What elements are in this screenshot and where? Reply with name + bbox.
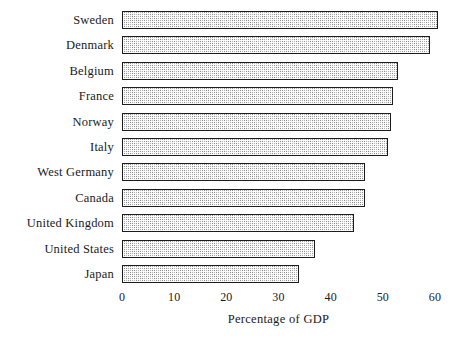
bar-row [122,160,435,185]
bar [122,265,299,283]
bar-row [122,237,435,262]
category-label: West Germany [0,160,114,185]
bar-row [122,211,435,236]
category-label: Belgium [0,59,114,84]
bar [122,163,365,181]
category-label: France [0,84,114,109]
category-label: Canada [0,186,114,211]
bar [122,189,365,207]
category-label: Italy [0,135,114,160]
x-axis-title: Percentage of GDP [122,312,435,327]
bar-row [122,59,435,84]
bar-chart: Sweden Denmark Belgium France Norway Ita… [0,0,470,343]
bar-row [122,110,435,135]
bar [122,113,391,131]
bar-row [122,262,435,287]
bar [122,87,393,105]
bar [122,240,315,258]
category-label: Denmark [0,33,114,58]
tick-label: 40 [324,290,336,305]
category-label: Japan [0,262,114,287]
tick-label: 60 [429,290,441,305]
tick-label: 10 [168,290,180,305]
category-label: United Kingdom [0,211,114,236]
bar [122,214,354,232]
bar-row [122,84,435,109]
bar-row [122,135,435,160]
tick-label: 50 [377,290,389,305]
bar [122,138,388,156]
tick-label: 20 [220,290,232,305]
value-axis-ticks: 0 10 20 30 40 50 60 [122,290,435,308]
bar [122,11,438,29]
category-label: United States [0,237,114,262]
bar-row [122,33,435,58]
bar-row [122,8,435,33]
bar-row [122,186,435,211]
tick-label: 30 [272,290,284,305]
tick-label: 0 [119,290,125,305]
plot-area [122,8,435,288]
category-axis-labels: Sweden Denmark Belgium France Norway Ita… [0,8,114,288]
category-label: Norway [0,110,114,135]
bar [122,36,430,54]
bar [122,62,398,80]
category-label: Sweden [0,8,114,33]
